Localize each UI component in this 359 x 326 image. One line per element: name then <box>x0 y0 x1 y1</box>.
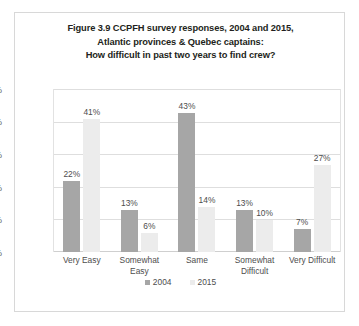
y-axis-tick-30: 30% <box>0 150 2 160</box>
y-axis-tick-20: 20% <box>0 183 2 193</box>
bar-same-2015[interactable] <box>198 207 215 252</box>
bar-slot-very-difficult-2015: 27% <box>314 89 331 252</box>
x-axis-label-very-easy: Very Easy <box>53 255 111 276</box>
x-axis-label-somewhat-easy-line-2: Easy <box>111 266 169 277</box>
bar-group-very-easy: 22% 41% <box>53 89 111 252</box>
x-axis-label-very-difficult-line-1: Very Difficult <box>289 255 335 265</box>
bar-slot-very-easy-2015: 41% <box>83 89 100 252</box>
legend-item-2015[interactable]: 2015 <box>190 277 217 287</box>
legend-item-2004[interactable]: 2004 <box>145 277 172 287</box>
x-axis-labels: Very Easy Somewhat Easy Same Somewhat Di… <box>53 255 341 276</box>
bar-very-easy-2004[interactable] <box>63 181 80 252</box>
bar-value-label-same-2015: 14% <box>189 195 225 205</box>
bar-somewhat-easy-2015[interactable] <box>141 233 158 252</box>
bar-slot-same-2004: 43% <box>178 89 195 252</box>
bar-slot-same-2015: 14% <box>198 89 215 252</box>
chart-legend: 2004 2015 <box>15 277 346 287</box>
bar-group-somewhat-difficult: 13% 10% <box>226 89 284 252</box>
x-axis-label-very-easy-line-1: Very Easy <box>63 255 101 265</box>
bar-group-same: 43% 14% <box>168 89 226 252</box>
bar-slot-somewhat-easy-2015: 6% <box>141 89 158 252</box>
x-axis-label-somewhat-difficult: Somewhat Difficult <box>226 255 284 276</box>
legend-swatch-icon-2015 <box>190 280 195 285</box>
bar-value-label-somewhat-easy-2015: 6% <box>131 221 167 231</box>
bar-slot-very-difficult-2004: 7% <box>294 89 311 252</box>
bar-group-very-difficult: 7% 27% <box>283 89 341 252</box>
bar-value-label-very-easy-2015: 41% <box>74 107 110 117</box>
chart-title-line-2: Atlantic provinces & Quebec captains: <box>23 36 338 50</box>
y-axis-tick-10: 10% <box>0 215 2 225</box>
x-axis-label-somewhat-easy: Somewhat Easy <box>111 255 169 276</box>
bar-very-difficult-2015[interactable] <box>314 165 331 253</box>
chart-title-line-3: How difficult in past two years to find … <box>23 49 338 63</box>
x-axis-label-somewhat-difficult-line-2: Difficult <box>226 266 284 277</box>
y-axis-tick-0: 0% <box>0 248 2 258</box>
bar-somewhat-easy-2004[interactable] <box>121 210 138 252</box>
legend-label-2015: 2015 <box>198 277 217 287</box>
figure-card: Figure 3.9 CCPFH survey responses, 2004 … <box>14 12 345 312</box>
x-axis-label-somewhat-easy-line-1: Somewhat <box>120 255 160 265</box>
legend-label-2004: 2004 <box>153 277 172 287</box>
bar-slot-somewhat-difficult-2015: 10% <box>256 89 273 252</box>
chart-title: Figure 3.9 CCPFH survey responses, 2004 … <box>23 22 338 63</box>
x-axis-label-somewhat-difficult-line-1: Somewhat <box>235 255 275 265</box>
x-axis-label-same: Same <box>168 255 226 276</box>
legend-swatch-icon-2004 <box>145 280 150 285</box>
x-axis-label-same-line-1: Same <box>186 255 208 265</box>
bar-value-label-very-difficult-2015: 27% <box>304 153 340 163</box>
chart-title-line-1: Figure 3.9 CCPFH survey responses, 2004 … <box>23 22 338 36</box>
bars-layer: 22% 41% 13% 6% <box>53 89 341 252</box>
x-axis-label-very-difficult: Very Difficult <box>283 255 341 276</box>
y-axis-tick-50: 50% <box>0 85 2 95</box>
bar-same-2004[interactable] <box>178 113 195 252</box>
bar-group-somewhat-easy: 13% 6% <box>111 89 169 252</box>
bar-somewhat-difficult-2015[interactable] <box>256 220 273 252</box>
y-axis-tick-40: 40% <box>0 117 2 127</box>
plot-region: 22% 41% 13% 6% <box>53 89 341 252</box>
bar-value-label-somewhat-difficult-2015: 10% <box>247 208 283 218</box>
bar-slot-somewhat-difficult-2004: 13% <box>236 89 253 252</box>
bar-very-easy-2015[interactable] <box>83 119 100 252</box>
bar-very-difficult-2004[interactable] <box>294 229 311 252</box>
